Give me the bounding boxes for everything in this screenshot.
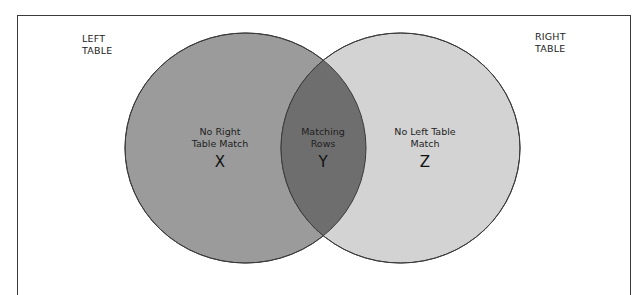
right-table-label-line2: TABLE — [535, 43, 566, 55]
right-only-region-label: No Left Table Match Z — [365, 126, 485, 171]
left-table-label: LEFT TABLE — [82, 33, 112, 57]
right-only-line1: No Left Table — [365, 126, 485, 138]
left-only-line2: Table Match — [160, 138, 280, 150]
right-table-label-line1: RIGHT — [535, 31, 566, 43]
right-only-line2: Match — [365, 138, 485, 150]
left-table-label-line1: LEFT — [82, 33, 112, 45]
left-only-letter: X — [160, 153, 280, 171]
right-table-label: RIGHT TABLE — [535, 31, 566, 55]
left-only-region-label: No Right Table Match X — [160, 126, 280, 171]
left-only-line1: No Right — [160, 126, 280, 138]
left-table-label-line2: TABLE — [82, 45, 112, 57]
right-only-letter: Z — [365, 153, 485, 171]
